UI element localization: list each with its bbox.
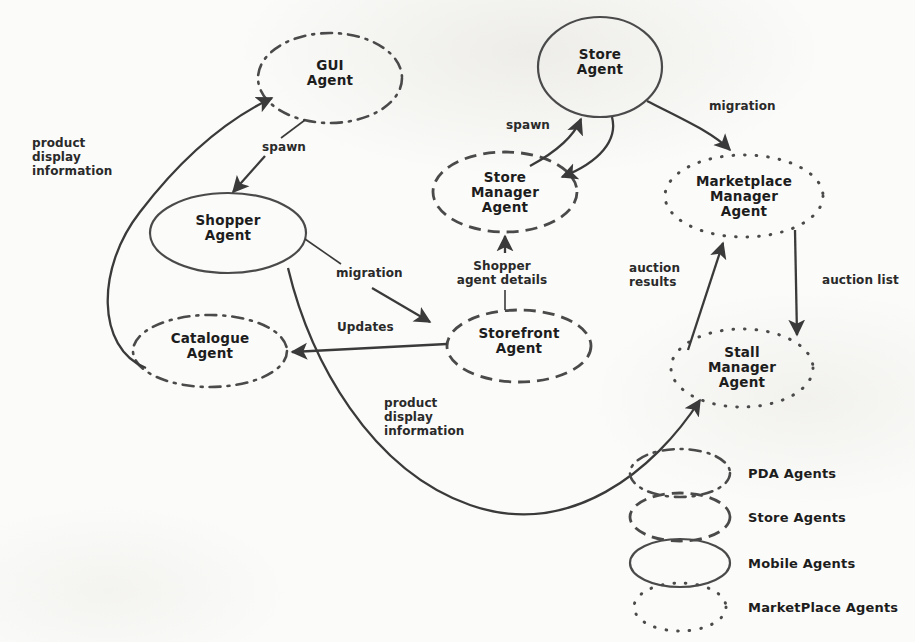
diagram-canvas: GUI Agent Store Agent Store Manager Agen…	[0, 0, 915, 642]
legend-swatch-store	[630, 493, 730, 541]
legend-swatch-mobile	[630, 539, 730, 587]
edge-label-catalogue-product-display-gui: product display information	[32, 136, 112, 178]
edge-store-agent-to-store-manager	[562, 117, 613, 177]
edge-label-stall-auction-results-marketplace: auction results	[629, 261, 680, 289]
legend-label-store: Store Agents	[748, 510, 846, 525]
edge-label-storefront-updates-catalogue: Updates	[337, 320, 394, 334]
node-stall-manager-agent[interactable]	[671, 329, 813, 407]
node-store-manager-agent[interactable]	[433, 152, 577, 232]
edge-gui-spawns-shopper	[233, 156, 265, 192]
edge-marketplace-auction-list-stall	[795, 230, 797, 335]
node-store-agent[interactable]	[538, 17, 662, 117]
node-catalogue-agent[interactable]	[133, 315, 287, 387]
legend-label-pda: PDA Agents	[748, 466, 836, 481]
edge-label-storefront-shopper-agent-details: Shopper agent details	[447, 259, 557, 287]
edge-label-shopper-migration-storefront: migration	[336, 266, 403, 280]
edge-stall-auction-results-marketplace	[688, 243, 723, 350]
edge-catalogue-product-display-gui	[108, 98, 272, 368]
edge-shopper-migration-storefront	[305, 239, 341, 264]
node-storefront-agent[interactable]	[447, 310, 591, 382]
edge-gui-spawns-shopper-leader	[281, 120, 305, 138]
node-shopper-agent[interactable]	[150, 193, 306, 273]
legend-label-mobile: Mobile Agents	[748, 556, 855, 571]
edge-label-marketplace-auction-list-stall: auction list	[822, 273, 899, 287]
edge-shopper-migration-storefront-arrow	[372, 288, 430, 322]
edge-label-store-spawns-store-manager: spawn	[506, 118, 550, 132]
edge-label-shopper-product-display-stall: product display information	[384, 396, 464, 438]
edge-label-store-migration-marketplace: migration	[709, 99, 776, 113]
edge-shopper-product-display-stall	[288, 268, 700, 514]
node-marketplace-manager-agent[interactable]	[665, 155, 823, 237]
legend-swatch-marketplace	[634, 583, 726, 631]
node-gui-agent[interactable]	[258, 33, 402, 123]
edge-label-gui-spawns-shopper: spawn	[262, 140, 306, 154]
legend-swatch-pda	[630, 449, 730, 497]
diagram-graphics	[0, 0, 915, 642]
legend-label-marketplace: MarketPlace Agents	[748, 600, 898, 615]
